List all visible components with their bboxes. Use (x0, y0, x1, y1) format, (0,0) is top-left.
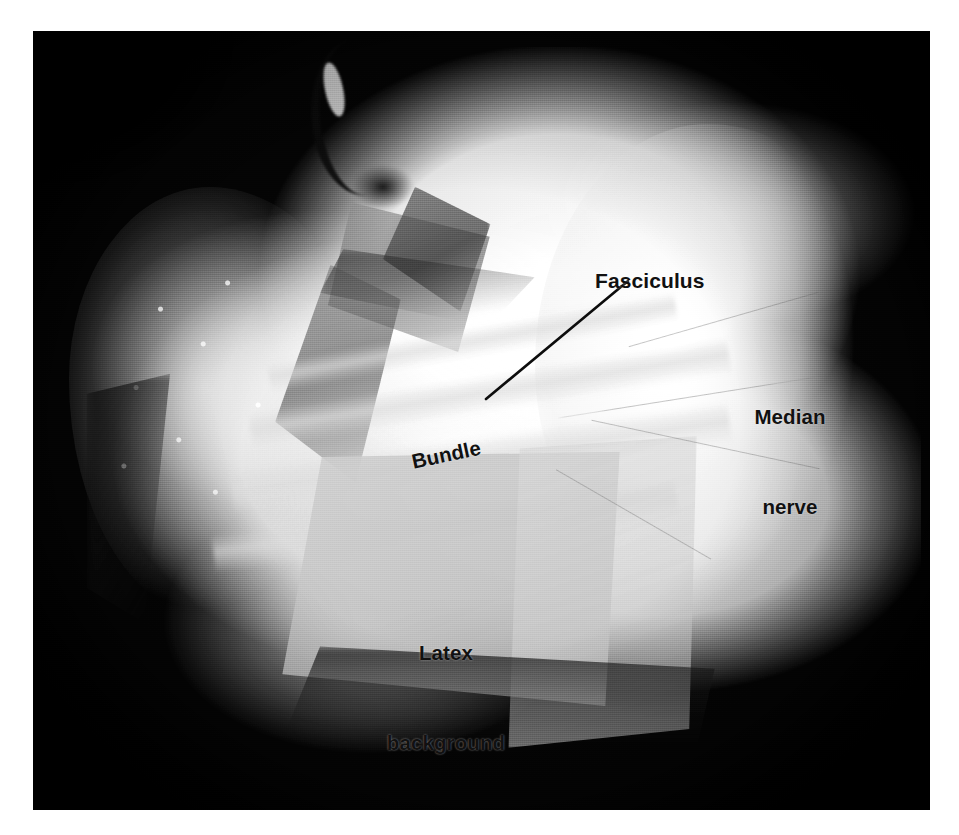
annotation-latex-line1: Latex (366, 638, 526, 668)
annotation-median-nerve-line1: Median (742, 402, 838, 432)
epineurium-hairline-4 (629, 292, 819, 347)
annotation-latex-line2: background (366, 728, 526, 758)
perineural-fat-tissue (69, 187, 374, 623)
median-nerve-lobe (535, 124, 894, 607)
fascicle-shape-a (320, 202, 517, 358)
nerve-bundle-band-4 (267, 291, 679, 393)
instrument-specular-highlight (319, 61, 348, 118)
annotation-median-nerve-line2: nerve (742, 492, 838, 522)
latex-background-sheet-2 (508, 436, 696, 748)
annotation-fasciculus: Fasciculus (595, 269, 705, 293)
fascicle-shape-b (275, 265, 401, 483)
epineurium-hairline-3 (556, 469, 712, 560)
shadow-central-cleft (320, 249, 553, 327)
annotation-latex-background: Latex background (366, 578, 526, 818)
surgical-instrument-tip (347, 156, 419, 218)
nerve-bundle-band-3 (212, 478, 680, 573)
shadow-top-left (33, 31, 302, 234)
nerve-bundle-band-1 (248, 336, 733, 450)
fascicle-shape-c (383, 187, 491, 312)
shadow-left-cleft (87, 374, 231, 623)
surgical-instrument-shaft (299, 32, 421, 201)
figure-root: Fasciculus Median nerve Bundle Latex bac… (0, 0, 959, 835)
annotation-median-nerve: Median nerve (742, 342, 838, 582)
